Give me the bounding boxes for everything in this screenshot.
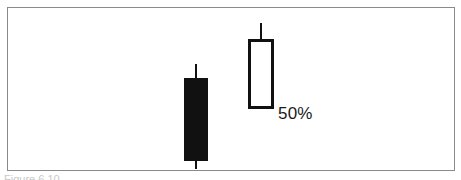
- bearish-upper-wick: [195, 64, 197, 79]
- bearish-lower-wick: [195, 160, 197, 169]
- bullish-candle-body: [248, 39, 274, 109]
- bearish-candle-body: [184, 78, 208, 161]
- retracement-percent-label: 50%: [278, 105, 313, 123]
- chart-frame-border: 50%: [7, 7, 455, 171]
- candlestick-figure: 50% Figure 6.10: [0, 0, 461, 180]
- figure-caption: Figure 6.10: [4, 173, 60, 180]
- bullish-upper-wick: [260, 23, 262, 40]
